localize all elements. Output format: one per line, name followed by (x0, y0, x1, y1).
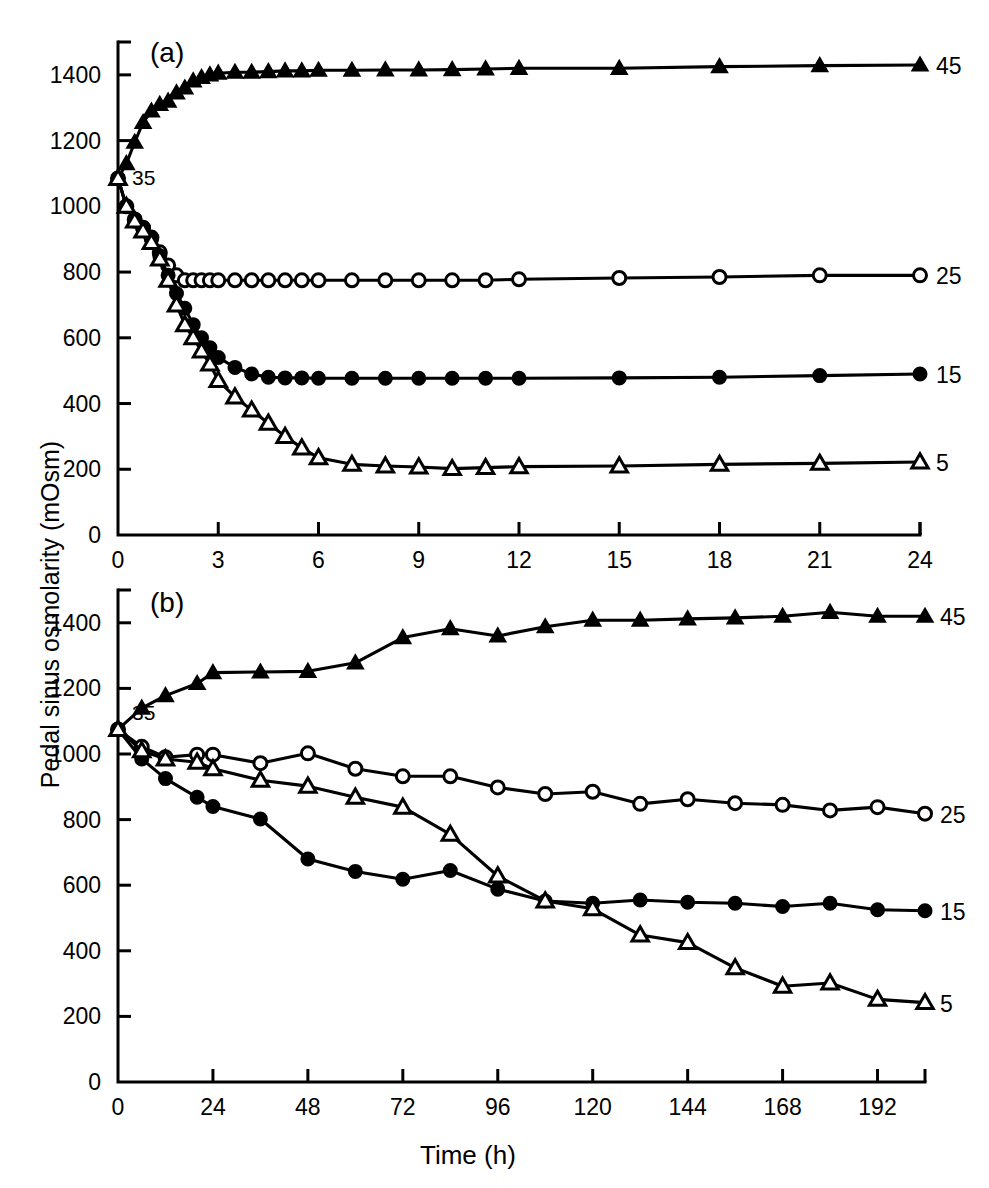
marker-open-circle (919, 807, 932, 820)
marker-filled-circle (871, 903, 884, 916)
marker-open-triangle (822, 975, 838, 989)
marker-filled-circle (444, 864, 457, 877)
y-tick-label: 1400 (50, 610, 101, 636)
marker-filled-circle (613, 371, 626, 384)
series-line (118, 729, 925, 1002)
marker-filled-triangle (190, 676, 205, 689)
marker-open-triangle (344, 456, 360, 470)
marker-filled-circle (396, 873, 409, 886)
marker-open-triangle (252, 772, 268, 786)
marker-filled-circle (301, 852, 314, 865)
x-tick-label: 12 (506, 547, 532, 573)
marker-filled-circle (446, 372, 459, 385)
panel-b: 0200400600800100012001400024487296120144… (50, 587, 966, 1120)
marker-open-circle (212, 274, 225, 287)
marker-open-triangle (411, 459, 427, 473)
y-tick-label: 400 (63, 938, 101, 964)
marker-open-triangle (377, 458, 393, 472)
x-tick-label: 144 (668, 1094, 707, 1120)
marker-open-circle (444, 770, 457, 783)
marker-open-circle (295, 274, 308, 287)
marker-filled-circle (491, 883, 504, 896)
y-tick-label: 800 (63, 259, 101, 285)
marker-filled-circle (159, 772, 172, 785)
series-end-label: 25 (936, 263, 962, 289)
x-tick-label: 9 (412, 547, 425, 573)
marker-open-triangle (912, 454, 928, 468)
series-end-label: 5 (940, 991, 953, 1017)
marker-open-circle (634, 797, 647, 810)
marker-open-circle (491, 781, 504, 794)
y-tick-label: 0 (88, 1069, 101, 1095)
marker-filled-circle (262, 371, 275, 384)
marker-open-circle (871, 801, 884, 814)
panel-label: (b) (150, 587, 184, 618)
x-tick-label: 120 (574, 1094, 612, 1120)
y-tick-label: 600 (63, 325, 101, 351)
marker-filled-circle (379, 372, 392, 385)
marker-open-triangle (310, 450, 326, 464)
marker-open-triangle (168, 297, 184, 311)
marker-filled-circle (412, 372, 425, 385)
marker-filled-circle (681, 896, 694, 909)
marker-open-triangle (110, 170, 126, 184)
y-tick-label: 1000 (50, 193, 101, 219)
marker-open-triangle (444, 460, 460, 474)
marker-open-circle (228, 274, 241, 287)
marker-open-triangle (118, 198, 134, 212)
marker-open-circle (349, 762, 362, 775)
marker-open-triangle (537, 893, 553, 907)
series-end-label: 45 (936, 53, 962, 79)
y-tick-label: 1200 (50, 675, 101, 701)
marker-filled-circle (919, 904, 932, 917)
marker-open-triangle (347, 789, 363, 803)
marker-open-triangle (711, 456, 727, 470)
series-end-label: 5 (936, 450, 949, 476)
marker-filled-circle (729, 897, 742, 910)
marker-open-circle (279, 274, 292, 287)
series-25 (112, 172, 927, 287)
marker-open-circle (312, 274, 325, 287)
inline-annotation: 35 (132, 166, 155, 189)
marker-open-triangle (477, 459, 493, 473)
marker-open-triangle (869, 991, 885, 1005)
marker-open-circle (776, 798, 789, 811)
marker-filled-triangle (443, 621, 458, 634)
marker-open-triangle (812, 455, 828, 469)
marker-open-triangle (205, 761, 221, 775)
marker-filled-circle (295, 371, 308, 384)
x-tick-label: 21 (807, 547, 833, 573)
y-tick-label: 1400 (50, 62, 101, 88)
x-tick-label: 3 (212, 547, 225, 573)
marker-filled-circle (634, 893, 647, 906)
marker-open-circle (713, 270, 726, 283)
marker-filled-circle (914, 367, 927, 380)
marker-open-triangle (774, 978, 790, 992)
x-tick-label: 48 (295, 1094, 321, 1120)
marker-filled-circle (813, 369, 826, 382)
marker-filled-triangle (119, 156, 134, 169)
figure-root: Pedal sinus osmolarity (mOsm) Time (h) 0… (0, 0, 989, 1188)
marker-filled-circle (513, 372, 526, 385)
series-5 (110, 170, 928, 474)
marker-filled-circle (254, 812, 267, 825)
marker-open-circle (301, 747, 314, 760)
x-tick-label: 24 (907, 547, 933, 573)
x-tick-label: 15 (606, 547, 632, 573)
y-tick-label: 200 (63, 456, 101, 482)
series-45 (110, 605, 932, 735)
y-tick-label: 800 (63, 807, 101, 833)
marker-open-triangle (395, 799, 411, 813)
marker-open-circle (729, 797, 742, 810)
series-end-label: 15 (940, 899, 966, 925)
marker-filled-circle (824, 897, 837, 910)
marker-open-circle (446, 274, 459, 287)
marker-filled-circle (228, 361, 241, 374)
series-end-label: 45 (940, 604, 966, 630)
marker-open-circle (513, 273, 526, 286)
series-25 (112, 723, 932, 820)
marker-filled-triangle (348, 655, 363, 668)
x-tick-label: 24 (200, 1094, 226, 1120)
y-tick-label: 400 (63, 391, 101, 417)
marker-filled-circle (206, 800, 219, 813)
